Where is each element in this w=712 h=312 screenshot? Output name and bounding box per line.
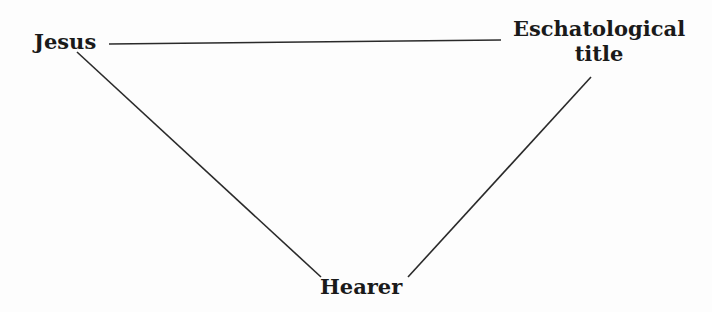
node-title-label-line1: Eschatological — [510, 17, 688, 41]
node-hearer-label: Hearer — [320, 274, 402, 299]
node-jesus: Jesus — [34, 30, 96, 54]
node-hearer: Hearer — [320, 275, 402, 299]
edge-title-hearer — [408, 77, 591, 277]
node-title-label-line2: title — [510, 42, 688, 66]
node-jesus-label: Jesus — [34, 29, 96, 54]
edge-jesus-title — [109, 40, 501, 44]
triangle-diagram: Jesus Eschatological title Hearer — [0, 0, 712, 312]
node-eschatological-title: Eschatological title — [510, 17, 688, 66]
edge-jesus-hearer — [77, 52, 321, 277]
